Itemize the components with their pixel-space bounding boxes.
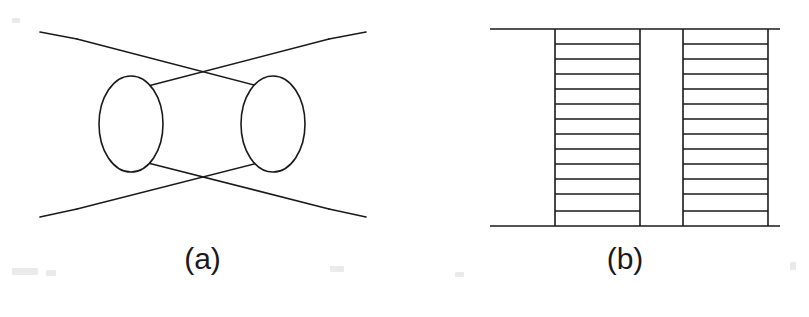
external-leg-bottom-left <box>40 209 77 217</box>
panel-b: (b) <box>405 0 809 317</box>
panel-b-caption: (b) <box>423 242 809 276</box>
left-blob <box>99 76 163 172</box>
crossed-blob-exchange-diagram <box>0 0 405 240</box>
lower-cross-line-left <box>77 163 258 209</box>
left-ladder-rungs <box>555 44 640 211</box>
lower-cross-line-right <box>148 163 329 209</box>
figure-root: (a) <box>0 0 809 317</box>
right-blob <box>241 76 305 172</box>
external-leg-top-left <box>40 32 77 39</box>
right-ladder-rungs <box>683 44 768 211</box>
upper-cross-line-left <box>77 39 258 86</box>
external-leg-bottom-right <box>329 209 366 217</box>
double-ladder-diagram <box>405 0 809 240</box>
panel-a-caption: (a) <box>0 242 405 276</box>
external-leg-top-right <box>329 32 366 39</box>
panel-a: (a) <box>0 0 405 317</box>
upper-cross-line-right <box>148 39 329 86</box>
